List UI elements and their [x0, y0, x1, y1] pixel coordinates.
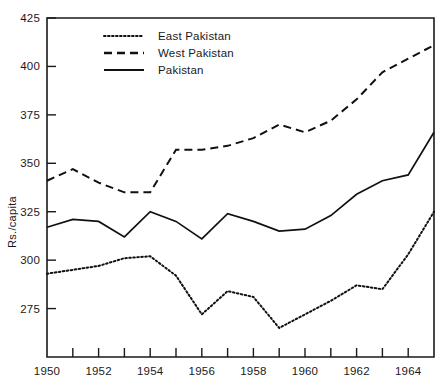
y-axis-ticks [47, 18, 56, 309]
y-axis-tick-label: 350 [20, 157, 40, 169]
series-line-west-pakistan [47, 45, 434, 192]
plot-frame [47, 18, 434, 357]
legend-label-west-pakistan: West Pakistan [158, 47, 234, 59]
x-axis-tick-label: 1950 [34, 365, 60, 377]
y-axis-tick-label: 375 [20, 109, 40, 121]
x-axis-ticks [73, 348, 408, 357]
x-axis-tick-label: 1954 [137, 365, 164, 377]
x-axis-tick-label: 1964 [395, 365, 422, 377]
y-axis-tick-label: 300 [20, 254, 40, 266]
y-axis-title: Rs./capita [6, 196, 18, 248]
line-chart: 275300325350375400425 195019521954195619… [0, 0, 448, 386]
legend-label-pakistan: Pakistan [158, 64, 204, 76]
x-axis-tick-label: 1962 [343, 365, 369, 377]
series-line-pakistan [47, 132, 434, 239]
x-axis-tick-label: 1958 [240, 365, 266, 377]
x-axis-tick-label: 1960 [292, 365, 318, 377]
y-axis-tick-label: 275 [20, 303, 40, 315]
y-axis-tick-label: 400 [20, 60, 40, 72]
chart-container: 275300325350375400425 195019521954195619… [0, 0, 448, 386]
series-group [47, 45, 434, 328]
x-axis-tick-label: 1952 [85, 365, 111, 377]
x-axis-tick-label: 1956 [189, 365, 215, 377]
x-axis-tick-labels: 19501952195419561958196019621964 [34, 365, 422, 377]
legend-label-east-pakistan: East Pakistan [158, 30, 231, 42]
chart-legend: East PakistanWest PakistanPakistan [104, 30, 234, 76]
series-line-east-pakistan [47, 212, 434, 328]
y-axis-tick-labels: 275300325350375400425 [20, 12, 40, 315]
y-axis-tick-label: 425 [20, 12, 40, 24]
y-axis-tick-label: 325 [20, 206, 40, 218]
